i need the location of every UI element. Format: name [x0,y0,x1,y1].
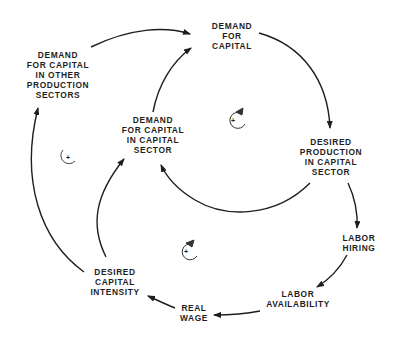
node-real-wage: REAL WAGE [180,303,208,323]
link-capsector-to-demand [153,48,191,112]
node-line: FOR CAPITAL [122,125,184,135]
node-line: IN OTHER [27,70,89,80]
node-labor-hiring: LABOR HIRING [343,233,376,253]
node-line: SECTORS [27,90,89,100]
node-line: PRODUCTION [300,147,362,157]
node-line: HIRING [343,243,376,253]
link-wage-to-intensity [148,296,175,308]
link-demand-to-production [259,33,330,128]
node-line: SECTOR [300,167,362,177]
node-line: DEMAND [122,115,184,125]
node-labor-availability: LABOR AVAILABILITY [266,289,330,309]
node-demand-for-capital: DEMAND FOR CAPITAL [212,21,252,51]
node-line: DESIRED [300,137,362,147]
node-line: LABOR [343,233,376,243]
node-line: IN CAPITAL [122,135,184,145]
link-availability-to-wage [214,311,260,315]
node-line: FOR CAPITAL [27,60,89,70]
link-intensity-to-other [31,108,84,272]
node-line: SECTOR [122,145,184,155]
node-line: WAGE [180,313,208,323]
loop-polarity-left: + [66,154,70,161]
node-line: REAL [180,303,208,313]
node-line: FOR [212,31,252,41]
link-other-to-demand [91,30,190,47]
link-intensity-to-capsector [97,159,124,257]
link-production-to-hiring [348,183,357,228]
node-line: CAPITAL [212,41,252,51]
loop-polarity-bottom: + [184,248,188,255]
link-hiring-to-availability [317,255,347,287]
link-production-to-capsector [161,165,310,212]
causal-loop-diagram: + + + DEMAND FOR CAPITAL DEMAND FOR CAPI… [0,0,393,343]
node-desired-production: DESIRED PRODUCTION IN CAPITAL SECTOR [300,137,362,177]
node-desired-capital-intensity: DESIRED CAPITAL INTENSITY [90,267,139,297]
node-line: AVAILABILITY [266,299,330,309]
node-line: DEMAND [27,50,89,60]
node-line: CAPITAL [90,277,139,287]
node-demand-capital-sector: DEMAND FOR CAPITAL IN CAPITAL SECTOR [122,115,184,155]
node-line: DESIRED [90,267,139,277]
node-line: PRODUCTION [27,80,89,90]
node-line: INTENSITY [90,287,139,297]
loop-polarity-inner: + [231,117,235,124]
node-demand-other-sectors: DEMAND FOR CAPITAL IN OTHER PRODUCTION S… [27,50,89,100]
node-line: IN CAPITAL [300,157,362,167]
node-line: LABOR [266,289,330,299]
node-line: DEMAND [212,21,252,31]
